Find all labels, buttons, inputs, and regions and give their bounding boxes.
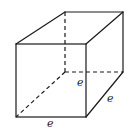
front-face xyxy=(16,44,86,117)
bottom-right-depth-edge xyxy=(86,72,123,117)
top-left-depth-edge xyxy=(16,12,65,44)
label-depth: e xyxy=(107,92,114,105)
top-right-depth-edge xyxy=(86,12,123,44)
hidden-bottom-left-depth-edge xyxy=(16,72,65,117)
label-width: e xyxy=(47,117,54,128)
cube-diagram: e e e xyxy=(0,0,133,128)
label-height: e xyxy=(77,76,84,89)
